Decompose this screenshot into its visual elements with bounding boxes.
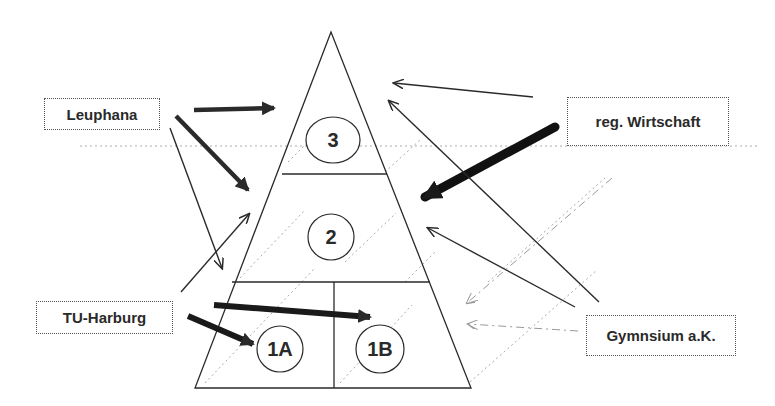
- arrow-wirtschaft-to-3: [394, 83, 533, 97]
- reg-wirtschaft-arrows: [394, 83, 555, 197]
- level-1a-label: 1A: [267, 338, 293, 360]
- arrow-gym-to-2: [428, 228, 575, 307]
- actor-reg-wirtschaft: reg. Wirtschaft: [567, 97, 729, 146]
- arrow-tu-to-1b: [214, 305, 370, 317]
- level-2-label: 2: [325, 226, 336, 248]
- arrow-leuphana-to-3: [194, 108, 274, 110]
- arrow-leuphana-to-1a: [170, 128, 222, 268]
- level-3-label: 3: [327, 129, 338, 151]
- actor-leuphana: Leuphana: [44, 98, 160, 130]
- level-1b-label: 1B: [367, 338, 393, 360]
- arrow-gym-dashed-2: [468, 324, 578, 331]
- arrow-leuphana-to-2: [176, 116, 248, 190]
- actor-gymnasium: Gymnsium a.K.: [586, 315, 736, 356]
- arrow-wirtschaft-to-2: [425, 127, 555, 197]
- actor-tu-harburg: TU-Harburg: [36, 301, 173, 334]
- arrow-tu-to-2: [181, 214, 249, 292]
